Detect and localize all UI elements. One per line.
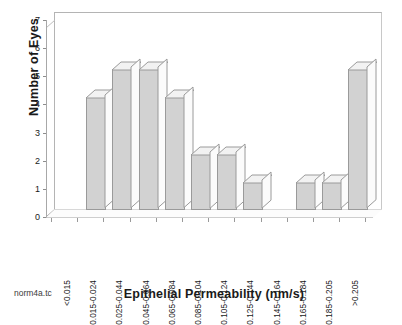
bar-front-face [243,182,263,210]
bar-front-face [86,97,106,210]
bar-front-face [191,154,211,210]
x-tick-mark [156,218,157,222]
bar-top-face [139,62,159,70]
y-tick-label: 1 [35,184,40,193]
y-axis-ticks: 01234567 [28,12,44,217]
x-axis-tick-marks [46,218,382,223]
x-tick-mark [339,218,340,222]
bar-top-face [86,90,106,98]
bar [348,69,368,210]
bar-top-face [322,175,342,183]
bar-front-face [139,69,159,210]
bar-top-face [112,62,132,70]
x-axis-category-labels: <0.0150.015-0.0240.025-0.0440.045-0.0640… [46,224,382,284]
bar-front-face [165,97,185,210]
bars-layer [46,12,382,218]
bar [322,182,342,210]
bar-top-face [243,175,263,183]
bar [112,69,132,210]
x-tick-mark [77,218,78,222]
x-tick-mark [182,218,183,222]
x-tick-mark [130,218,131,222]
bar [296,182,316,210]
y-tick-label: 3 [35,128,40,137]
bar-top-face [165,90,185,98]
x-tick-mark [261,218,262,222]
x-tick-mark [287,218,288,222]
bar-front-face [348,69,368,210]
bar [165,97,185,210]
y-tick-label: 0 [35,213,40,222]
bar-top-face [348,62,368,70]
bar [86,97,106,210]
bar-side-face [367,69,375,210]
bar-front-face [217,154,237,210]
bar-top-face [217,147,237,155]
x-tick-mark [365,218,366,222]
x-tick-mark [313,218,314,222]
bar-front-face [322,182,342,210]
bar-top-face [191,147,211,155]
file-tag-annotation: norm4a.tc [14,288,52,298]
x-axis-title: Epithelial Permeability (nm/s) [46,287,382,301]
x-tick-mark [103,218,104,222]
y-tick-label: 7 [35,16,40,25]
x-tick-mark [208,218,209,222]
x-tick-mark [51,218,52,222]
y-tick-label: 4 [35,100,40,109]
bar [139,69,159,210]
bar [191,154,211,210]
y-tick-label: 6 [35,44,40,53]
x-tick-mark [234,218,235,222]
bar-front-face [112,69,132,210]
bar [217,154,237,210]
bar-front-face [296,182,316,210]
y-tick-label: 2 [35,156,40,165]
bar [243,182,263,210]
bar-top-face [296,175,316,183]
bar-side-face [262,182,270,210]
y-tick-label: 5 [35,72,40,81]
